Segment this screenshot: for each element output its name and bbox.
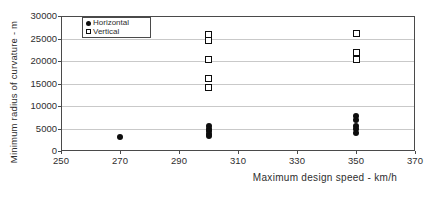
- legend-item-vertical: Vertical: [86, 28, 148, 37]
- data-point-vertical: [205, 37, 212, 44]
- y-axis-title-text: Minimum radius of curvature - m: [8, 21, 19, 163]
- gridline: [62, 61, 414, 62]
- gridline: [62, 106, 414, 107]
- x-tick-label: 290: [163, 156, 195, 166]
- x-tick-label: 310: [222, 156, 254, 166]
- y-tick-label: 10000: [21, 101, 57, 111]
- x-tick-mark: [356, 151, 357, 154]
- filled-circle-icon: [86, 21, 91, 26]
- y-tick-label: 30000: [21, 11, 57, 21]
- data-point-vertical: [353, 30, 360, 37]
- y-tick-label: 20000: [21, 56, 57, 66]
- y-tick-label: 0: [21, 146, 57, 156]
- x-tick-label: 350: [340, 156, 372, 166]
- x-tick-mark: [61, 151, 62, 154]
- y-tick-mark: [58, 106, 61, 107]
- y-tick-label: 15000: [21, 79, 57, 89]
- x-tick-label: 270: [104, 156, 136, 166]
- y-tick-mark: [58, 129, 61, 130]
- y-tick-mark: [58, 16, 61, 17]
- x-tick-mark: [415, 151, 416, 154]
- x-tick-mark: [179, 151, 180, 154]
- data-point-vertical: [353, 49, 360, 56]
- data-point-horizontal: [206, 133, 212, 139]
- y-tick-mark: [58, 84, 61, 85]
- data-point-vertical: [205, 75, 212, 82]
- x-tick-label: 330: [281, 156, 313, 166]
- legend-label: Vertical: [93, 28, 119, 36]
- data-point-vertical: [205, 84, 212, 91]
- gridline: [62, 84, 414, 85]
- x-tick-mark: [297, 151, 298, 154]
- x-tick-label: 250: [45, 156, 77, 166]
- data-point-vertical: [205, 56, 212, 63]
- y-tick-label: 25000: [21, 34, 57, 44]
- data-point-vertical: [353, 56, 360, 63]
- data-point-horizontal: [353, 130, 359, 136]
- y-tick-mark: [58, 39, 61, 40]
- y-tick-mark: [58, 61, 61, 62]
- open-square-icon: [86, 29, 91, 34]
- gridline: [62, 39, 414, 40]
- data-point-horizontal: [117, 134, 123, 140]
- x-axis-title: Maximum design speed - km/h: [232, 172, 418, 183]
- x-tick-mark: [120, 151, 121, 154]
- scatter-chart: Minimum radius of curvature - m Horizont…: [0, 0, 439, 200]
- gridline: [62, 129, 414, 130]
- legend: HorizontalVertical: [82, 17, 151, 38]
- x-tick-label: 370: [399, 156, 431, 166]
- x-tick-mark: [238, 151, 239, 154]
- y-tick-label: 5000: [21, 124, 57, 134]
